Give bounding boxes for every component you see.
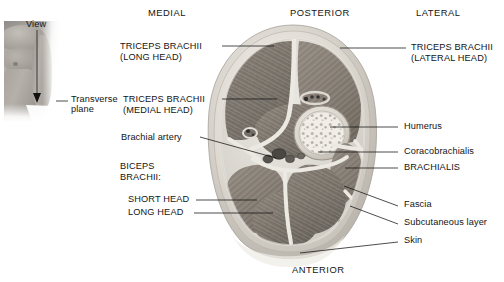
label-triceps-lateral-head-line2: (LATERAL HEAD) — [411, 53, 487, 64]
cross-section-svg — [193, 23, 393, 267]
orientation-anterior: ANTERIOR — [292, 264, 344, 275]
label-biceps-brachii-line2: BRACHII: — [120, 172, 161, 183]
label-fascia: Fascia — [404, 199, 432, 210]
label-coracobrachialis: Coracobrachialis — [404, 146, 474, 157]
label-skin: Skin — [404, 235, 422, 246]
label-triceps-long-head-line2: (LONG HEAD) — [120, 52, 182, 63]
label-brachialis: BRACHIALIS — [404, 162, 460, 173]
inset-view-label: View — [26, 19, 46, 30]
anatomy-figure: View Transverse plane MEDIAL POSTERIOR L… — [0, 0, 504, 282]
torso-nipple — [13, 62, 18, 66]
label-biceps-brachii-line1: BICEPS — [120, 161, 155, 172]
label-brachial-artery: Brachial artery — [121, 132, 182, 143]
label-humerus: Humerus — [404, 121, 442, 132]
orientation-inset — [4, 21, 64, 122]
label-triceps-medial-head-line2: (MEDIAL HEAD) — [123, 105, 193, 116]
orientation-lateral: LATERAL — [416, 7, 461, 18]
label-subcutaneous-layer: Subcutaneous layer — [404, 217, 487, 228]
inset-plane-label-line2: plane — [71, 104, 94, 115]
label-biceps-short-head: SHORT HEAD — [128, 194, 189, 205]
arm-transverse-section — [193, 23, 393, 267]
orientation-medial: MEDIAL — [148, 7, 186, 18]
label-triceps-medial-head-line1: TRICEPS BRACHII — [123, 94, 205, 105]
label-triceps-long-head-line1: TRICEPS BRACHII — [120, 41, 202, 52]
inset-fade-bottom — [4, 104, 64, 122]
label-triceps-lateral-head-line1: TRICEPS BRACHII — [411, 42, 493, 53]
orientation-posterior: POSTERIOR — [290, 7, 350, 18]
label-biceps-long-head: LONG HEAD — [128, 207, 183, 218]
